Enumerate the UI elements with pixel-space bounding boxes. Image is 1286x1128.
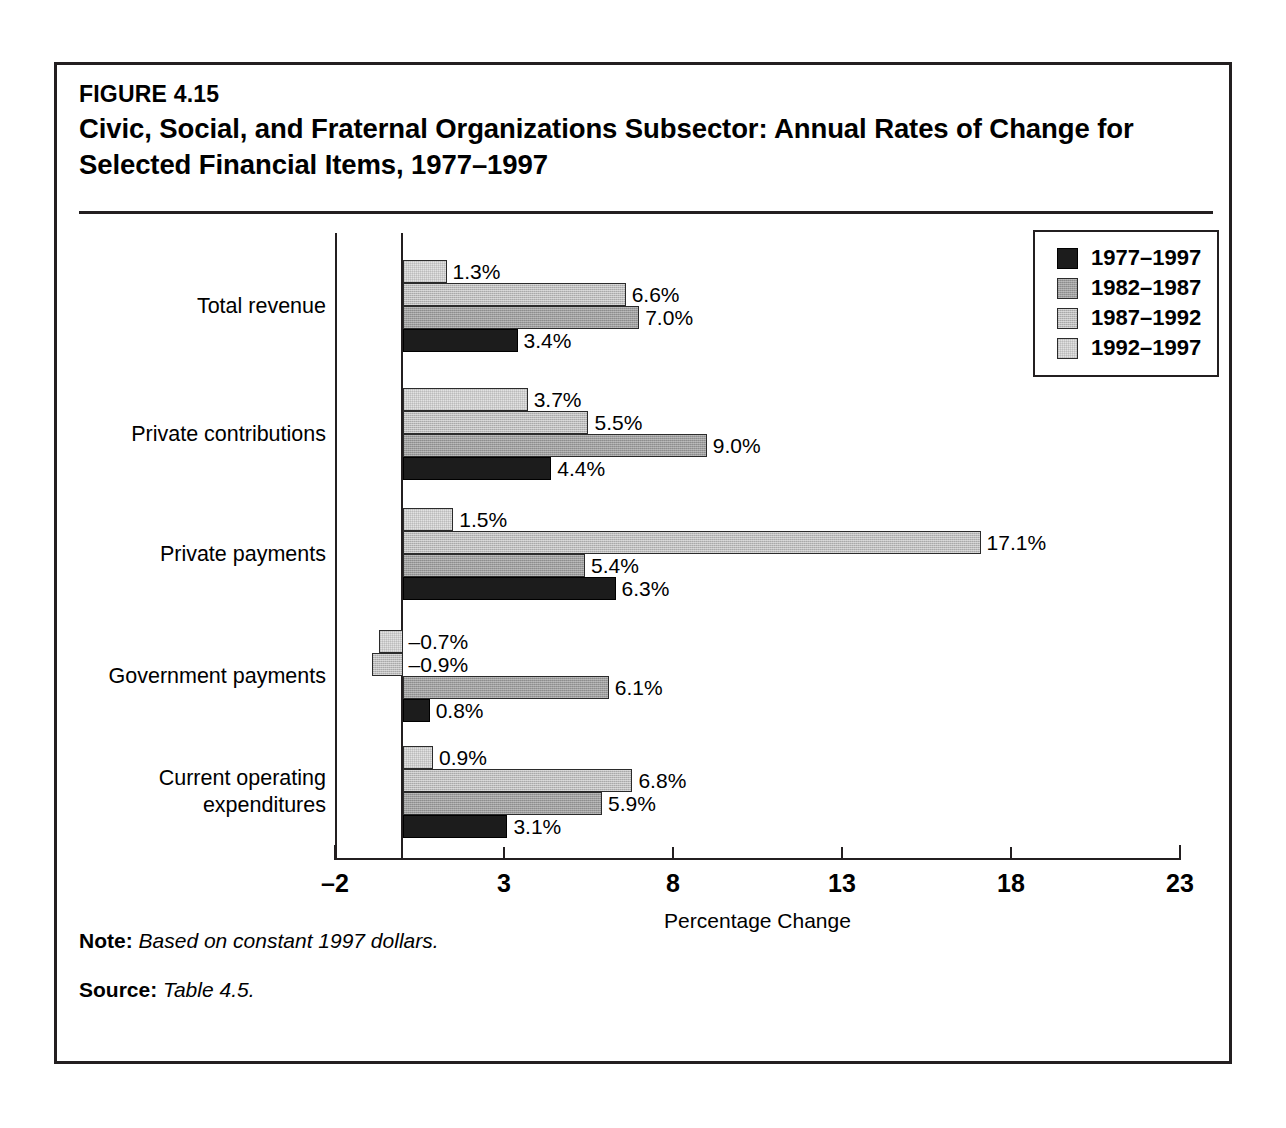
swatch-medium-gray-icon bbox=[1057, 308, 1078, 329]
category-label: Total revenue bbox=[6, 293, 326, 320]
bar[interactable] bbox=[403, 411, 589, 434]
bar[interactable] bbox=[372, 653, 402, 676]
bar-value-label: 6.1% bbox=[615, 677, 663, 698]
x-tick-label: 18 bbox=[997, 869, 1025, 898]
legend-item[interactable]: 1982–1987 bbox=[1035, 273, 1217, 303]
bar-value-label: 0.9% bbox=[439, 747, 487, 768]
bar-value-label: 5.9% bbox=[608, 793, 656, 814]
bar-value-label: –0.9% bbox=[409, 654, 469, 675]
bar-row: 5.5% bbox=[335, 411, 1180, 434]
bar[interactable] bbox=[403, 577, 616, 600]
x-tick bbox=[1179, 845, 1181, 860]
bar-value-label: –0.7% bbox=[409, 631, 469, 652]
x-tick-label: 3 bbox=[497, 869, 511, 898]
bar-value-label: 5.5% bbox=[595, 412, 643, 433]
note-label: Note: bbox=[79, 929, 133, 952]
bar-row: 3.1% bbox=[335, 815, 1180, 838]
legend-item-label: 1987–1992 bbox=[1091, 305, 1201, 331]
category-label: Private contributions bbox=[6, 421, 326, 448]
bar-value-label: 7.0% bbox=[645, 307, 693, 328]
source-row: Source: Table 4.5. bbox=[79, 978, 439, 1002]
bar-row: 4.4% bbox=[335, 457, 1180, 480]
bar-row: 5.4% bbox=[335, 554, 1180, 577]
bar-value-label: 5.4% bbox=[591, 555, 639, 576]
bar[interactable] bbox=[403, 676, 609, 699]
bar[interactable] bbox=[403, 329, 518, 352]
bar[interactable] bbox=[403, 769, 633, 792]
bar-value-label: 3.7% bbox=[534, 389, 582, 410]
bar[interactable] bbox=[403, 554, 586, 577]
bar[interactable] bbox=[403, 260, 447, 283]
category-label: Government payments bbox=[6, 663, 326, 690]
bar-group: 1.5%17.1%5.4%6.3% bbox=[335, 508, 1180, 600]
category-label: Current operating expenditures bbox=[6, 765, 326, 820]
x-tick-label: –2 bbox=[321, 869, 349, 898]
header-divider bbox=[79, 211, 1213, 214]
source-label: Source: bbox=[79, 978, 157, 1001]
bar-value-label: 6.6% bbox=[632, 284, 680, 305]
bar[interactable] bbox=[403, 531, 981, 554]
figure-notes: Note: Based on constant 1997 dollars. So… bbox=[79, 929, 439, 1027]
bar-value-label: 1.5% bbox=[459, 509, 507, 530]
bar-group: 3.7%5.5%9.0%4.4% bbox=[335, 388, 1180, 480]
bar-value-label: 3.1% bbox=[513, 816, 561, 837]
bar[interactable] bbox=[403, 306, 640, 329]
figure-number: FIGURE 4.15 bbox=[79, 81, 1209, 107]
figure-container: FIGURE 4.15 Civic, Social, and Fraternal… bbox=[54, 62, 1232, 1064]
bar-row: 6.8% bbox=[335, 769, 1180, 792]
bar-row: 6.1% bbox=[335, 676, 1180, 699]
x-tick bbox=[334, 845, 336, 860]
bar-row: –0.9% bbox=[335, 653, 1180, 676]
x-tick bbox=[503, 847, 505, 860]
bar-value-label: 1.3% bbox=[453, 261, 501, 282]
x-tick-label: 8 bbox=[666, 869, 680, 898]
bar-row: 0.8% bbox=[335, 699, 1180, 722]
swatch-black-icon bbox=[1057, 248, 1078, 269]
bar[interactable] bbox=[379, 630, 403, 653]
legend-item-label: 1982–1987 bbox=[1091, 275, 1201, 301]
bar-group: 0.9%6.8%5.9%3.1% bbox=[335, 746, 1180, 838]
bar[interactable] bbox=[403, 699, 430, 722]
bar-row: –0.7% bbox=[335, 630, 1180, 653]
x-tick bbox=[1010, 847, 1012, 860]
legend-item[interactable]: 1992–1997 bbox=[1035, 333, 1217, 363]
bar-value-label: 4.4% bbox=[557, 458, 605, 479]
bar-value-label: 6.8% bbox=[638, 770, 686, 791]
bar-value-label: 3.4% bbox=[524, 330, 572, 351]
legend-item[interactable]: 1987–1992 bbox=[1035, 303, 1217, 333]
x-tick-label: 23 bbox=[1166, 869, 1194, 898]
bar-value-label: 17.1% bbox=[987, 532, 1047, 553]
bar-group: –0.7%–0.9%6.1%0.8% bbox=[335, 630, 1180, 722]
x-tick bbox=[672, 847, 674, 860]
bar-row: 5.9% bbox=[335, 792, 1180, 815]
bar-row: 9.0% bbox=[335, 434, 1180, 457]
chart-legend: 1977–19971982–19871987–19921992–1997 bbox=[1033, 230, 1219, 377]
x-tick-label: 13 bbox=[828, 869, 856, 898]
bar-row: 1.5% bbox=[335, 508, 1180, 531]
swatch-light-gray-icon bbox=[1057, 338, 1078, 359]
source-text: Table 4.5. bbox=[163, 978, 254, 1001]
bar[interactable] bbox=[403, 746, 433, 769]
bar-value-label: 0.8% bbox=[436, 700, 484, 721]
bar[interactable] bbox=[403, 434, 707, 457]
bar[interactable] bbox=[403, 792, 602, 815]
legend-item-label: 1992–1997 bbox=[1091, 335, 1201, 361]
bar-row: 0.9% bbox=[335, 746, 1180, 769]
note-row: Note: Based on constant 1997 dollars. bbox=[79, 929, 439, 953]
x-axis-line bbox=[335, 858, 1180, 860]
legend-item[interactable]: 1977–1997 bbox=[1035, 243, 1217, 273]
category-label: Private payments bbox=[6, 541, 326, 568]
swatch-dark-gray-icon bbox=[1057, 278, 1078, 299]
bar[interactable] bbox=[403, 388, 528, 411]
bar[interactable] bbox=[403, 815, 508, 838]
figure-title: Civic, Social, and Fraternal Organizatio… bbox=[79, 111, 1209, 181]
bar[interactable] bbox=[403, 283, 626, 306]
legend-item-label: 1977–1997 bbox=[1091, 245, 1201, 271]
figure-header: FIGURE 4.15 Civic, Social, and Fraternal… bbox=[79, 81, 1209, 182]
bar-row: 17.1% bbox=[335, 531, 1180, 554]
bar-value-label: 6.3% bbox=[622, 578, 670, 599]
bar-row: 3.7% bbox=[335, 388, 1180, 411]
bar-value-label: 9.0% bbox=[713, 435, 761, 456]
bar[interactable] bbox=[403, 457, 552, 480]
bar[interactable] bbox=[403, 508, 454, 531]
